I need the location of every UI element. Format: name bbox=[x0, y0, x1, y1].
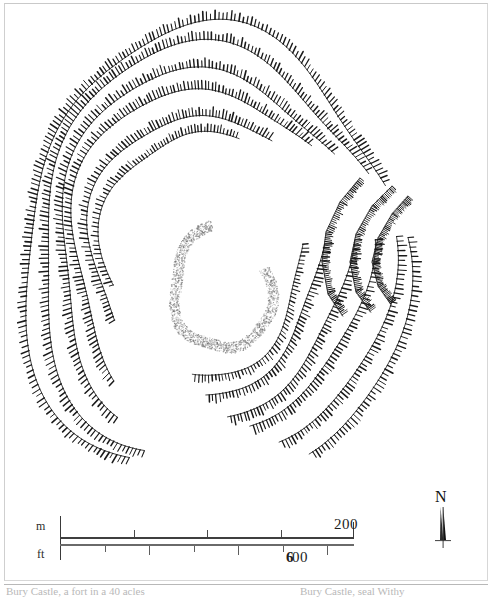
scale-imperial-unit-label: ft bbox=[37, 548, 44, 560]
scale-imperial-max-trailing-digits: 00 bbox=[292, 549, 308, 565]
scale-tick-imperial bbox=[238, 546, 239, 555]
scale-bar-metric-line bbox=[60, 537, 354, 539]
north-arrow: N bbox=[424, 490, 464, 552]
scale-metric-max-label: 200 bbox=[334, 516, 358, 533]
site-plan-figure: m ft 200 600 N Bury Castle, a fort in a … bbox=[0, 0, 493, 598]
rampart-contour bbox=[54, 58, 383, 434]
caption-fragment-right: Bury Castle, seal Withy bbox=[300, 585, 404, 597]
inner-enclosure-ring bbox=[169, 220, 280, 353]
scale-tick-metric bbox=[134, 530, 135, 537]
scale-tick-metric bbox=[281, 530, 282, 537]
scale-tick-imperial bbox=[283, 546, 284, 552]
north-label: N bbox=[435, 488, 447, 506]
hillfort-plan-map bbox=[0, 0, 493, 598]
rampart-contour bbox=[78, 107, 333, 403]
caption-fragment-left: Bury Castle, a fort in a 40 acles bbox=[6, 585, 145, 597]
scale-tick-imperial bbox=[105, 546, 106, 552]
hachure-ramparts-layer bbox=[18, 10, 422, 464]
scale-tick-metric bbox=[207, 530, 208, 537]
scale-tick-imperial bbox=[327, 546, 328, 555]
scale-tick-imperial bbox=[149, 546, 150, 555]
scale-metric-unit-label: m bbox=[36, 520, 45, 532]
cut-off-caption-strip: Bury Castle, a fort in a 40 acles Bury C… bbox=[0, 585, 493, 598]
scale-bar: m ft 200 600 bbox=[48, 516, 368, 566]
inner-enclosure-stipple-layer bbox=[169, 220, 280, 353]
scale-imperial-max-label: 600 bbox=[286, 549, 308, 566]
scale-tick-imperial bbox=[194, 546, 195, 552]
